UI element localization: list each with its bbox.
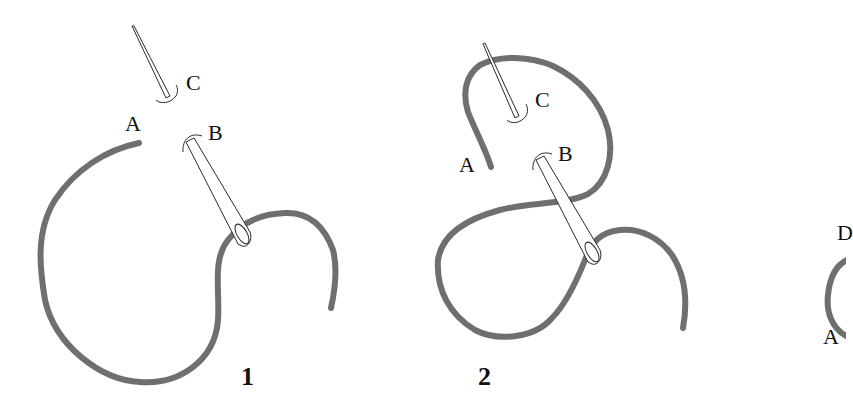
panel-2 xyxy=(438,43,685,337)
label-a-panel-2: A xyxy=(459,154,475,176)
thread-panel-1 xyxy=(41,143,336,382)
step-number-2: 2 xyxy=(478,364,491,390)
needle-b-icon xyxy=(183,135,252,246)
label-c-panel-1: C xyxy=(186,72,201,94)
label-d-panel-3: D xyxy=(837,222,853,244)
label-a-panel-3: A xyxy=(823,326,839,348)
step-number-1: 1 xyxy=(241,364,254,390)
label-a-panel-1: A xyxy=(125,113,141,135)
label-b-panel-2: B xyxy=(558,143,573,165)
needle-b-icon xyxy=(533,153,602,264)
label-c-panel-2: C xyxy=(535,89,550,111)
needle-c-icon xyxy=(483,43,528,123)
label-b-panel-1: B xyxy=(208,122,223,144)
needle-c-icon xyxy=(132,26,178,103)
